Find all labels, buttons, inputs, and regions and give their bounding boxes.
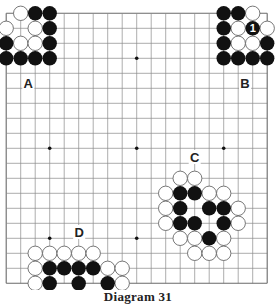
- white-stone: [115, 261, 129, 275]
- black-stone: [14, 51, 28, 65]
- black-stone: [28, 51, 42, 65]
- white-stone: [188, 231, 202, 245]
- white-stone: [173, 171, 187, 185]
- white-stone: [14, 36, 28, 50]
- star-point: [135, 57, 139, 61]
- region-label-c: C: [190, 150, 200, 165]
- white-stone: [231, 201, 245, 215]
- white-stone: [72, 246, 86, 260]
- region-label-b: B: [240, 76, 249, 91]
- white-stone: [231, 36, 245, 50]
- white-stone: [188, 246, 202, 260]
- white-stone: [28, 276, 42, 290]
- white-stone: [28, 261, 42, 275]
- black-stone: [217, 6, 231, 20]
- white-stone: [159, 186, 173, 200]
- white-stone: [14, 6, 28, 20]
- white-stone: [173, 231, 187, 245]
- region-label-a: A: [24, 76, 34, 91]
- black-stone: [101, 276, 115, 290]
- star-point: [48, 147, 52, 151]
- region-label-d: D: [75, 225, 84, 240]
- black-stone: [217, 201, 231, 215]
- star-point: [48, 237, 52, 241]
- white-stone: [246, 6, 260, 20]
- star-point: [135, 237, 139, 241]
- white-stone: [159, 216, 173, 230]
- star-point: [135, 147, 139, 151]
- black-stone: [28, 6, 42, 20]
- white-stone: [28, 21, 42, 35]
- black-stone: [0, 36, 13, 50]
- black-stone: [260, 36, 274, 50]
- black-stone: [0, 51, 13, 65]
- black-stone: [231, 51, 245, 65]
- black-stone: [43, 51, 57, 65]
- black-stone: [43, 6, 57, 20]
- white-stone: [217, 186, 231, 200]
- black-stone: [173, 216, 187, 230]
- white-stone: [246, 36, 260, 50]
- black-stone: [57, 261, 71, 275]
- black-stone: [188, 216, 202, 230]
- white-stone: [115, 276, 129, 290]
- black-stone: [72, 276, 86, 290]
- black-stone: [260, 51, 274, 65]
- black-stone: [231, 6, 245, 20]
- black-stone: [202, 231, 216, 245]
- white-stone: [101, 261, 115, 275]
- black-stone: [72, 261, 86, 275]
- black-stone: [43, 36, 57, 50]
- black-stone: [43, 261, 57, 275]
- white-stone: [57, 246, 71, 260]
- black-stone: [188, 186, 202, 200]
- star-point: [222, 147, 226, 151]
- black-stone: [217, 51, 231, 65]
- white-stone: [202, 246, 216, 260]
- black-stone: [217, 36, 231, 50]
- white-stone: [202, 186, 216, 200]
- go-board: 1 ABCD: [0, 0, 276, 290]
- black-stone: [217, 216, 231, 230]
- black-stone: [202, 201, 216, 215]
- white-stone: [159, 201, 173, 215]
- black-stone: [173, 201, 187, 215]
- white-stone: [0, 21, 13, 35]
- white-stone: [43, 246, 57, 260]
- white-stone: [260, 21, 274, 35]
- diagram-caption: Diagram 31: [0, 289, 276, 305]
- white-stone: [231, 216, 245, 230]
- white-stone: [28, 246, 42, 260]
- black-stone: [173, 186, 187, 200]
- black-stone: [43, 276, 57, 290]
- move-number: 1: [250, 22, 256, 34]
- white-stone: [188, 171, 202, 185]
- white-stone: [231, 21, 245, 35]
- white-stone: [217, 246, 231, 260]
- white-stone: [86, 246, 100, 260]
- black-stone: [86, 261, 100, 275]
- white-stone: [28, 36, 42, 50]
- black-stone: [43, 21, 57, 35]
- white-stone: [217, 231, 231, 245]
- black-stone: [246, 51, 260, 65]
- black-stone: [217, 21, 231, 35]
